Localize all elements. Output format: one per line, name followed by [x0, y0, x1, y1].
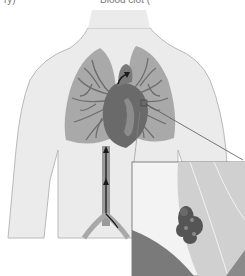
inset-magnified-view	[132, 162, 245, 276]
neck	[88, 10, 150, 28]
pulmonary-embolism-diagram	[0, 0, 245, 276]
